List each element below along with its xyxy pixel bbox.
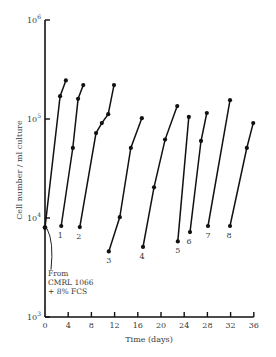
data-point — [100, 121, 104, 125]
series-line — [109, 118, 142, 251]
growth-curve-chart: 04812162024283236103104105106 12345678 F… — [0, 0, 276, 357]
annotation-text: + 8% FCS — [48, 287, 87, 296]
series-label: 3 — [106, 256, 111, 265]
series-label: 6 — [186, 237, 191, 246]
data-point — [94, 131, 98, 135]
series-line — [190, 113, 207, 232]
series-label: 8 — [226, 231, 231, 240]
x-tick-label: 28 — [202, 321, 212, 330]
data-point — [206, 224, 210, 228]
data-point — [228, 98, 232, 102]
x-tick-label: 16 — [133, 321, 143, 330]
x-tick-label: 12 — [110, 321, 120, 330]
series-3: 3 — [106, 116, 144, 265]
data-point — [176, 239, 180, 243]
series-line — [208, 100, 230, 226]
data-point — [175, 104, 179, 108]
data-point — [187, 115, 191, 119]
data-point — [141, 245, 145, 249]
data-point — [205, 111, 209, 115]
series-5: 5 — [175, 115, 191, 256]
data-point — [140, 116, 144, 120]
series-label: 5 — [175, 246, 180, 255]
x-tick-label: 8 — [89, 321, 94, 330]
data-point — [245, 146, 249, 150]
y-tick-label: 103 — [27, 310, 41, 322]
series-line — [230, 123, 253, 226]
data-point — [64, 78, 68, 82]
data-point — [152, 185, 156, 189]
series-6: 6 — [186, 111, 208, 246]
series-label: 7 — [205, 231, 210, 240]
y-tick-label: 104 — [27, 211, 41, 223]
data-point — [188, 230, 192, 234]
series-7: 7 — [205, 98, 232, 240]
y-axis-title: Cell number / ml culture — [15, 120, 24, 220]
y-tick-label: 106 — [27, 13, 41, 25]
series-label: 2 — [76, 232, 81, 241]
x-tick-label: 32 — [226, 321, 236, 330]
data-point — [163, 137, 167, 141]
annotation: FromCMRL 1066+ 8% FCS — [43, 225, 94, 295]
x-axis-title: Time (days) — [125, 335, 173, 344]
x-tick-label: 0 — [42, 321, 47, 330]
series-label: 1 — [58, 231, 63, 240]
x-tick-label: 24 — [179, 321, 189, 330]
initial-point — [43, 225, 48, 230]
data-point — [129, 146, 133, 150]
series-line — [143, 106, 177, 247]
series-8: 8 — [226, 121, 255, 240]
data-point — [81, 83, 85, 87]
series-line — [80, 85, 114, 227]
data-point — [59, 224, 63, 228]
series-4: 4 — [139, 104, 179, 261]
series-label: 4 — [139, 252, 144, 261]
series-line — [45, 81, 66, 228]
annotation-pointer — [47, 229, 52, 270]
y-tick-label: 105 — [27, 112, 41, 124]
series-line — [178, 117, 189, 241]
data-point — [71, 146, 75, 150]
data-point — [107, 249, 111, 253]
annotation-text: From — [48, 269, 68, 278]
x-tick-label: 20 — [156, 321, 166, 330]
data-point — [76, 97, 80, 101]
data-point — [251, 121, 255, 125]
series-line — [61, 85, 83, 226]
data-point — [58, 94, 62, 98]
data-point — [118, 215, 122, 219]
data-point — [112, 83, 116, 87]
data-point — [199, 139, 203, 143]
data-point — [78, 225, 82, 229]
series-2: 2 — [76, 83, 116, 241]
annotation-text: CMRL 1066 — [48, 278, 94, 287]
series-layer: 12345678 — [43, 78, 255, 265]
x-tick-label: 36 — [249, 321, 259, 330]
data-point — [228, 224, 232, 228]
x-tick-label: 4 — [66, 321, 71, 330]
data-point — [106, 112, 110, 116]
